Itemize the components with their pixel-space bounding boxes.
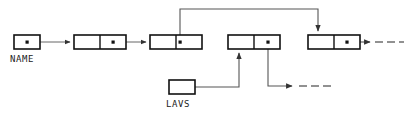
pointer-dot	[345, 41, 348, 44]
pointer-dot	[266, 41, 269, 44]
diagram-canvas: NAME LAVS	[0, 0, 404, 116]
lavs-head-label: LAVS	[166, 99, 190, 109]
list-node-2[interactable]	[150, 35, 202, 49]
list-node-1[interactable]	[74, 35, 126, 49]
name-head-cell[interactable]	[14, 35, 40, 49]
pointer-dot	[26, 41, 29, 44]
list-node-3[interactable]	[228, 35, 280, 49]
lavs-head-cell[interactable]	[169, 80, 195, 94]
pointer-dot	[112, 41, 115, 44]
edge-lavs-up-to-node3	[195, 53, 239, 87]
pointer-dot	[179, 41, 182, 44]
list-node-4[interactable]	[308, 35, 360, 49]
name-head-label: NAME	[10, 54, 34, 64]
linked-list-diagram: NAME LAVS	[0, 0, 404, 116]
edge-node3-down-right-dashed	[268, 49, 292, 86]
